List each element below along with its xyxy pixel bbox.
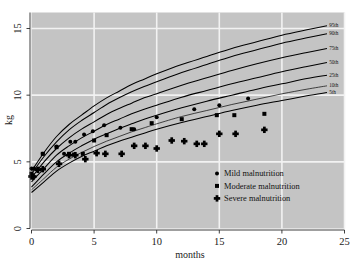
legend-label-2: Severe malnutrition — [224, 194, 291, 203]
x-tick-10: 10 — [151, 236, 162, 247]
percentile-label-50th: 50th — [329, 59, 339, 65]
x-tick-25: 25 — [339, 236, 350, 247]
x-tick-20: 20 — [277, 236, 288, 247]
chart-canvas: 95th90th75th50th25th10th5th 051015202505… — [0, 0, 357, 261]
y-tick-0: 0 — [12, 226, 23, 231]
growth-chart: 95th90th75th50th25th10th5th 051015202505… — [0, 0, 357, 261]
percentile-label-5th: 5th — [329, 89, 336, 95]
y-tick-15: 15 — [12, 23, 23, 34]
x-tick-0: 0 — [29, 236, 34, 247]
x-tick-15: 15 — [214, 236, 225, 247]
percentile-label-75th: 75th — [329, 45, 339, 51]
legend-label-1: Moderate malnutrition — [224, 182, 300, 191]
y-axis-label: kg — [3, 115, 14, 125]
x-tick-5: 5 — [91, 236, 96, 247]
y-tick-10: 10 — [12, 90, 23, 101]
percentile-labels: 95th90th75th50th25th10th5th — [329, 22, 339, 95]
percentile-label-90th: 90th — [329, 30, 339, 36]
percentile-label-25th: 25th — [329, 72, 339, 78]
percentile-label-10th: 10th — [329, 82, 339, 88]
y-tick-5: 5 — [12, 159, 23, 164]
percentile-label-95th: 95th — [329, 22, 339, 28]
legend-label-0: Mild malnutrition — [224, 169, 285, 178]
x-axis-label: months — [175, 249, 205, 260]
